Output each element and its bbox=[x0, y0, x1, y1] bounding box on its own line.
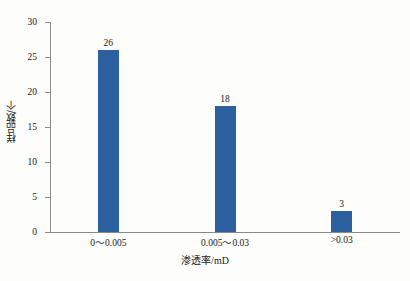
bar-value-label: 26 bbox=[104, 38, 114, 48]
y-axis-tick-label: 5 bbox=[32, 192, 37, 202]
x-axis-line bbox=[50, 232, 400, 233]
bar-value-label: 3 bbox=[339, 199, 344, 209]
x-axis-tick-label: 0〜0.005 bbox=[90, 235, 126, 249]
y-axis-tick: 30 bbox=[45, 22, 50, 23]
y-axis-tick-label: 15 bbox=[28, 122, 38, 132]
bar-chart: 样品数/个 051015202530 26183 0〜0.0050.005〜0.… bbox=[0, 0, 410, 281]
x-axis-tick-label: 0.005〜0.03 bbox=[201, 235, 249, 249]
y-axis-tick-label: 0 bbox=[32, 227, 37, 237]
x-axis-tick-label: >0.03 bbox=[331, 235, 353, 245]
y-axis-line bbox=[50, 22, 51, 232]
y-axis-tick-label: 30 bbox=[28, 17, 38, 27]
y-axis-title: 样品数/个 bbox=[6, 100, 24, 143]
bar: 18 bbox=[215, 106, 236, 232]
plot-area: 051015202530 26183 0〜0.0050.005〜0.03>0.0… bbox=[50, 22, 400, 232]
x-axis-title-unit: /mD bbox=[211, 255, 229, 266]
y-axis-tick: 15 bbox=[45, 127, 50, 128]
y-axis-tick-label: 20 bbox=[28, 87, 38, 97]
y-axis-tick: 10 bbox=[45, 162, 50, 163]
bar-value-label: 18 bbox=[220, 94, 230, 104]
y-axis-tick: 25 bbox=[45, 57, 50, 58]
y-axis-tick: 20 bbox=[45, 92, 50, 93]
x-axis-title-text: 渗透率 bbox=[181, 255, 211, 266]
y-axis-tick-label: 10 bbox=[28, 157, 38, 167]
x-axis-title: 渗透率/mD bbox=[0, 252, 410, 267]
bar: 3 bbox=[331, 211, 352, 232]
y-axis-tick: 5 bbox=[45, 197, 50, 198]
y-axis-tick-label: 25 bbox=[28, 52, 38, 62]
y-axis-tick: 0 bbox=[45, 232, 50, 233]
bar: 26 bbox=[98, 50, 119, 232]
